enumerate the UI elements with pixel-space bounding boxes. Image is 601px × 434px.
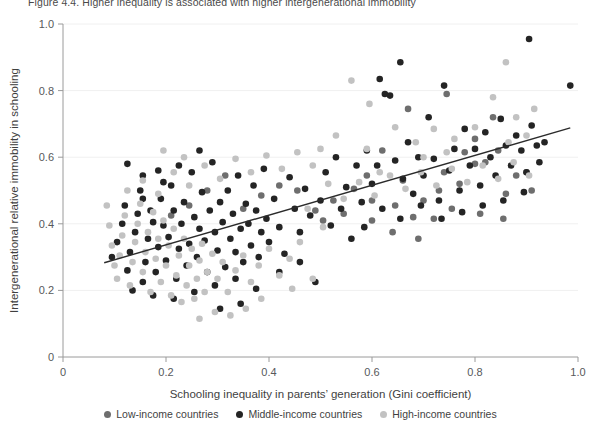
data-point [209,250,216,257]
data-point [443,91,450,98]
data-point [467,162,474,169]
data-point [201,289,208,296]
data-point [150,219,157,226]
data-point [196,147,203,154]
data-point [103,202,110,209]
data-point [165,234,172,241]
data-point [232,249,239,256]
data-point [137,187,144,194]
data-point [124,161,131,168]
data-point [134,221,141,228]
data-point [196,257,203,264]
data-point [160,147,167,154]
data-point [415,235,422,242]
data-point [248,279,255,286]
data-point [472,136,479,143]
data-point [333,132,340,139]
data-point [214,275,221,282]
data-point [472,146,479,153]
data-point [155,167,162,174]
data-point [266,239,273,246]
data-point [186,262,193,269]
data-point [140,269,147,276]
data-point [199,240,206,247]
data-point [240,252,247,259]
data-point [497,116,504,123]
data-point [286,255,293,262]
data-point [356,179,363,186]
data-point [526,172,533,179]
data-point [307,212,314,219]
chart-legend: Low-income countriesMiddle-income countr… [0,408,601,420]
data-point [160,217,167,224]
x-tick-label: 0.8 [467,366,482,378]
x-tick-label: 0.6 [364,366,379,378]
data-point [330,197,337,204]
data-point [479,162,486,169]
data-point [376,169,383,176]
data-point [518,147,525,154]
data-point [441,82,448,89]
data-point [503,59,510,66]
data-point [188,245,195,252]
data-point [534,142,541,149]
data-point [232,275,239,282]
data-point [328,222,335,229]
data-point [343,184,350,191]
data-point [152,255,159,262]
legend-item[interactable]: Low-income countries [104,408,218,420]
data-point [410,191,417,198]
data-point [412,139,419,146]
data-point [500,197,507,204]
data-point [358,199,365,206]
data-point [137,201,144,208]
data-point [194,275,201,282]
data-point [490,94,497,101]
data-point [297,229,304,236]
data-point [297,259,304,266]
data-point [181,199,188,206]
data-point [294,187,301,194]
data-point [201,162,208,169]
legend-item[interactable]: Middle-income countries [236,408,362,420]
y-tick-label: 0.8 [39,85,54,97]
data-point [348,77,355,84]
data-point [526,36,533,43]
data-point [366,101,373,108]
data-point [129,259,136,266]
data-point [253,285,260,292]
data-point [528,122,535,129]
data-point [279,166,286,173]
data-point [122,212,129,219]
data-point [181,154,188,161]
x-tick-label: 0.4 [261,366,276,378]
legend-item[interactable]: High-income countries [380,408,496,420]
data-point [263,152,270,159]
data-point [140,279,147,286]
data-point [482,129,489,136]
data-point [503,191,510,198]
data-point [140,177,147,184]
data-point [250,182,257,189]
data-point [255,262,262,269]
data-point [155,191,162,198]
data-point [353,162,360,169]
data-point [240,259,247,266]
data-point [127,282,134,289]
data-point [443,149,450,156]
data-point [261,166,268,173]
data-point [477,211,484,218]
data-point [219,259,226,266]
data-point [309,275,316,282]
data-point [479,202,486,209]
series-middle-income-countries [109,36,574,312]
data-point [119,221,126,228]
data-point [333,154,340,161]
data-point [209,159,216,166]
data-point [405,139,412,146]
data-point [431,126,438,133]
data-point [320,224,327,231]
trendline [104,128,570,263]
data-point [258,295,265,302]
y-tick-label: 1.0 [39,18,54,30]
